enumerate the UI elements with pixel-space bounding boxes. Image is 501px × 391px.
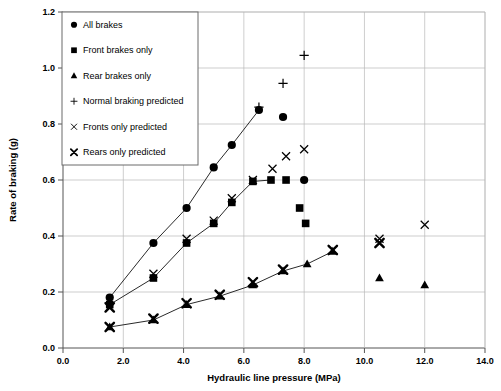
- legend-item-label: Normal braking predicted: [83, 96, 184, 106]
- data-point-filled-circle: [279, 113, 287, 121]
- legend-item-label: Rear brakes only: [83, 71, 152, 81]
- data-point-filled-circle: [228, 141, 236, 149]
- data-point-filled-square: [150, 274, 158, 282]
- legend-item-5[interactable]: Rears only predicted: [71, 147, 166, 157]
- data-point-filled-circle: [255, 106, 263, 114]
- data-point-filled-circle: [210, 163, 218, 171]
- legend-item-2[interactable]: Rear brakes only: [71, 71, 152, 81]
- data-point-filled-square: [267, 176, 275, 184]
- x-tick-label: 4.0: [177, 356, 190, 366]
- y-tick-label: 0.8: [42, 119, 55, 129]
- chart-canvas: 0.02.04.06.08.010.012.014.0 0.00.20.40.6…: [0, 0, 501, 391]
- data-point-filled-square: [302, 220, 310, 228]
- legend-item-label: Front brakes only: [83, 45, 153, 55]
- legend-item-3[interactable]: Normal braking predicted: [71, 96, 184, 106]
- x-tick-label: 12.0: [416, 356, 434, 366]
- legend-item-label: Rears only predicted: [83, 147, 166, 157]
- y-tick-label: 0.6: [42, 175, 55, 185]
- y-axis-title: Rate of braking (g): [7, 138, 18, 222]
- legend-item-1[interactable]: Front brakes only: [71, 45, 153, 55]
- data-point-filled-circle: [300, 176, 308, 184]
- data-point-filled-square: [210, 220, 218, 228]
- legend-item-4[interactable]: Fronts only predicted: [71, 122, 167, 132]
- x-tick-label: 14.0: [476, 356, 494, 366]
- data-point-filled-square: [282, 176, 290, 184]
- x-tick-label: 8.0: [298, 356, 311, 366]
- chart-legend: All brakesFront brakes onlyRear brakes o…: [62, 12, 198, 165]
- data-point-filled-circle: [106, 294, 114, 302]
- legend-marker-filled-circle-icon: [71, 22, 77, 28]
- data-point-filled-square: [296, 204, 304, 212]
- x-tick-label: 0.0: [57, 356, 70, 366]
- braking-performance-chart: 0.02.04.06.08.010.012.014.0 0.00.20.40.6…: [0, 0, 501, 391]
- y-tick-label: 0.0: [42, 343, 55, 353]
- y-tick-label: 1.2: [42, 7, 55, 17]
- y-tick-label: 0.4: [42, 231, 55, 241]
- x-tick-label: 6.0: [238, 356, 251, 366]
- x-axis-title: Hydraulic line pressure (MPa): [207, 372, 341, 383]
- data-point-filled-circle: [149, 239, 157, 247]
- legend-box: [62, 12, 198, 165]
- data-point-filled-square: [183, 239, 191, 247]
- data-point-filled-square: [228, 199, 236, 207]
- y-tick-label: 1.0: [42, 63, 55, 73]
- data-point-filled-square: [106, 301, 114, 309]
- legend-item-label: Fronts only predicted: [83, 122, 167, 132]
- data-point-filled-square: [249, 178, 257, 186]
- data-point-filled-circle: [182, 204, 190, 212]
- legend-item-label: All brakes: [83, 20, 123, 30]
- x-tick-label: 2.0: [117, 356, 130, 366]
- legend-marker-filled-square-icon: [71, 47, 77, 53]
- y-tick-label: 0.2: [42, 287, 55, 297]
- x-tick-label: 10.0: [356, 356, 374, 366]
